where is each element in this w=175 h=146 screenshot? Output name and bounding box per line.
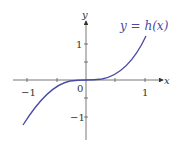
y-tick-label-1: 1 xyxy=(76,39,82,50)
x-axis-label: x xyxy=(164,75,170,86)
y-axis-label: y xyxy=(81,9,88,20)
x-tick-label-1: 1 xyxy=(142,87,148,98)
function-graph: y x 0 −1 1 1 −1 y = h(x) xyxy=(0,0,175,146)
origin-label: 0 xyxy=(77,83,83,94)
function-label: y = h(x) xyxy=(119,19,169,33)
x-tick-label-neg1: −1 xyxy=(21,87,36,98)
y-tick-label-neg1: −1 xyxy=(70,112,85,123)
